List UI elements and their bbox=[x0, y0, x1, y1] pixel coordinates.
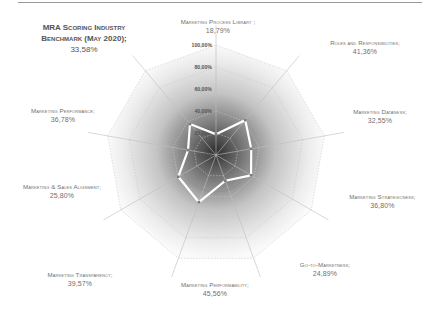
label-marketing-transparency: Marketing Transparency; 39,57% bbox=[25, 270, 135, 288]
svg-text:60,00%: 60,00% bbox=[194, 86, 212, 92]
label-roles-and-responsibilities: Roles and Responsibilities; 41,36% bbox=[300, 38, 430, 56]
label-marketing-sales-alignment: Marketing & Sales Alignment; 25,80% bbox=[2, 182, 122, 200]
svg-text:40,00%: 40,00% bbox=[194, 108, 212, 114]
svg-text:80,00%: 80,00% bbox=[194, 64, 212, 70]
benchmark-title: MRA Scoring Industry Benchmark (May 2020… bbox=[41, 23, 126, 43]
label-marketing-process-library: Marketing Process Library ; 18,79% bbox=[148, 17, 288, 35]
benchmark-value: 33,58% bbox=[30, 44, 138, 55]
benchmark-label: MRA Scoring Industry Benchmark (May 2020… bbox=[30, 22, 138, 55]
label-marketing-strategicness: Marketing Strategicness; 36,80% bbox=[330, 192, 435, 210]
label-marketing-performability: Marketing Performability; 45,56% bbox=[155, 280, 275, 298]
svg-text:100,00%: 100,00% bbox=[192, 42, 213, 48]
svg-text:0,00%: 0,00% bbox=[197, 152, 212, 158]
label-marketing-performance: Marketing Performance; 36,78% bbox=[8, 106, 118, 124]
label-marketing-dataness: Marketing Dataness; 32,55% bbox=[330, 107, 430, 125]
label-go-to-marketness: Go-to-Marketness; 24,89% bbox=[275, 260, 375, 278]
